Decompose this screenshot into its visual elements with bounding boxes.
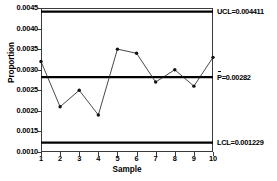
center-line-label: P=0.00282 [217, 73, 251, 82]
x-tick-mark [117, 152, 118, 156]
x-tick-mark [156, 152, 157, 156]
center-line-label-symbol: P [217, 73, 222, 82]
x-tick-mark [79, 152, 80, 156]
p-control-chart: Proportion 0.00450.00400.00350.00300.002… [0, 0, 277, 181]
x-tick-mark [137, 152, 138, 156]
x-tick-mark [194, 152, 195, 156]
center-line-label-value: =0.00282 [222, 73, 251, 82]
ucl-label: UCL=0.004411 [217, 7, 264, 16]
x-tick-mark [175, 152, 176, 156]
x-tick-mark [213, 152, 214, 156]
lcl-label: LCL=0.001229 [217, 138, 264, 147]
x-tick-mark [60, 152, 61, 156]
x-axis-ticks: 12345678910 [0, 0, 277, 181]
x-axis-title: Sample [41, 165, 213, 174]
x-tick-mark [41, 152, 42, 156]
x-tick-mark [98, 152, 99, 156]
